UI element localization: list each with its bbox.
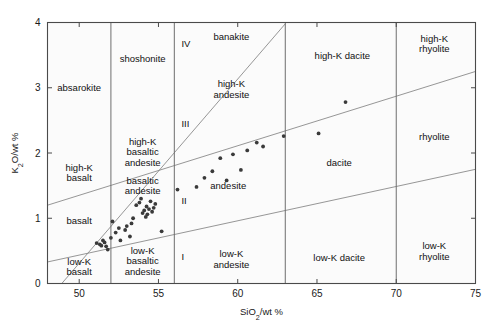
k2o-sio2-classification-chart: 50556065707501234 absarokiteshoshoniteba…: [0, 0, 499, 323]
data-point: [231, 152, 235, 156]
field-label-line: andesite: [125, 266, 161, 277]
data-point: [245, 148, 249, 152]
data-point: [261, 145, 265, 149]
y-tick-label-3: 3: [35, 82, 41, 93]
field-label-absarokite: absarokite: [57, 82, 101, 93]
roman-iii: III: [181, 118, 189, 129]
field-label-line: low-K: [67, 256, 91, 267]
data-point: [147, 207, 151, 211]
data-point: [176, 188, 180, 192]
data-point: [128, 235, 132, 239]
x-tick-label-60: 60: [232, 288, 244, 299]
field-label-line: high-K: [218, 78, 246, 89]
roman-ii: II: [181, 195, 186, 206]
figure-container: 50556065707501234 absarokiteshoshoniteba…: [0, 0, 499, 323]
field-label-line: low-K: [422, 240, 446, 251]
data-point: [195, 185, 199, 189]
field-label-line: low-K dacite: [313, 252, 365, 263]
data-point: [139, 197, 143, 201]
data-point: [239, 168, 243, 172]
data-point: [130, 222, 134, 226]
field-label-line: basaltic: [127, 146, 159, 157]
data-point: [203, 176, 207, 180]
field-label-line: andesite: [213, 89, 249, 100]
field-label-line: banakite: [213, 31, 249, 42]
data-point: [150, 210, 154, 214]
field-label-line: basaltic: [127, 255, 159, 266]
field-label-basaltic-andesite: basalticandesite: [125, 175, 161, 197]
field-label-dacite: dacite: [326, 157, 351, 168]
data-point: [131, 216, 135, 220]
field-label-basalt: basalt: [67, 215, 93, 226]
field-label-line: high-K: [129, 136, 157, 147]
field-label-line: basalt: [67, 215, 93, 226]
roman-iv: IV: [181, 38, 191, 49]
data-point: [255, 141, 259, 145]
data-point: [109, 236, 113, 240]
field-label-low-k-dacite: low-K dacite: [313, 252, 365, 263]
field-label-line: rhyolite: [419, 251, 450, 262]
data-point: [111, 220, 115, 224]
data-point: [145, 212, 149, 216]
field-label-line: rhyolite: [419, 131, 450, 142]
x-tick-label-70: 70: [391, 288, 403, 299]
x-tick-label-65: 65: [311, 288, 323, 299]
y-tick-label-4: 4: [35, 17, 41, 28]
data-point: [152, 206, 156, 210]
data-point: [99, 244, 103, 248]
field-label-line: high-K: [65, 162, 93, 173]
data-point: [317, 132, 321, 136]
data-point: [282, 134, 286, 138]
data-point: [210, 169, 214, 173]
field-label-line: low-K: [219, 248, 243, 259]
field-label-line: high-K dacite: [315, 50, 370, 61]
data-point: [103, 240, 107, 244]
field-label-line: basalt: [67, 172, 93, 183]
field-label-line: dacite: [326, 157, 351, 168]
field-label-line: basalt: [67, 266, 93, 277]
data-point: [160, 229, 164, 233]
data-point: [114, 231, 118, 235]
data-point: [106, 248, 110, 252]
data-point: [134, 203, 138, 207]
field-label-high-k-basaltic-andesite: high-Kbasalticandesite: [125, 136, 161, 168]
y-tick-label-0: 0: [35, 278, 41, 289]
field-label-shoshonite: shoshonite: [120, 53, 166, 64]
field-label-line: rhyolite: [419, 43, 450, 54]
x-tick-label-75: 75: [470, 288, 482, 299]
data-point: [123, 228, 127, 232]
field-label-line: absarokite: [57, 82, 101, 93]
field-label-line: andesite: [125, 185, 161, 196]
field-label-high-k-rhyolite: high-Krhyolite: [419, 33, 450, 55]
y-tick-label-2: 2: [35, 148, 41, 159]
field-label-andesite: andesite: [210, 180, 246, 191]
data-point: [125, 224, 129, 228]
data-point: [119, 239, 123, 243]
field-label-line: high-K: [421, 33, 449, 44]
field-label-line: andesite: [213, 259, 249, 270]
roman-i: I: [181, 251, 184, 262]
data-point: [117, 226, 121, 230]
data-point: [149, 199, 153, 203]
field-label-high-k-basalt: high-Kbasalt: [65, 162, 93, 184]
data-point: [142, 209, 146, 213]
field-label-line: shoshonite: [120, 53, 166, 64]
field-label-high-k-dacite: high-K dacite: [315, 50, 370, 61]
data-point: [138, 201, 142, 205]
data-point: [344, 100, 348, 104]
field-label-line: andesite: [125, 157, 161, 168]
field-label-rhyolite: rhyolite: [419, 131, 450, 142]
field-label-line: low-K: [131, 245, 155, 256]
x-tick-label-55: 55: [153, 288, 165, 299]
field-label-low-k-rhyolite: low-Krhyolite: [419, 240, 450, 262]
x-tick-label-50: 50: [74, 288, 86, 299]
plot-area-background: [48, 23, 476, 284]
data-point: [153, 202, 157, 206]
y-tick-label-1: 1: [35, 213, 41, 224]
data-point: [104, 244, 108, 248]
field-label-low-k-basalt: low-Kbasalt: [67, 256, 93, 278]
field-label-banakite: banakite: [213, 31, 249, 42]
field-label-line: andesite: [210, 180, 246, 191]
field-label-high-k-andesite: high-Kandesite: [213, 78, 249, 100]
field-label-line: basaltic: [127, 175, 159, 186]
